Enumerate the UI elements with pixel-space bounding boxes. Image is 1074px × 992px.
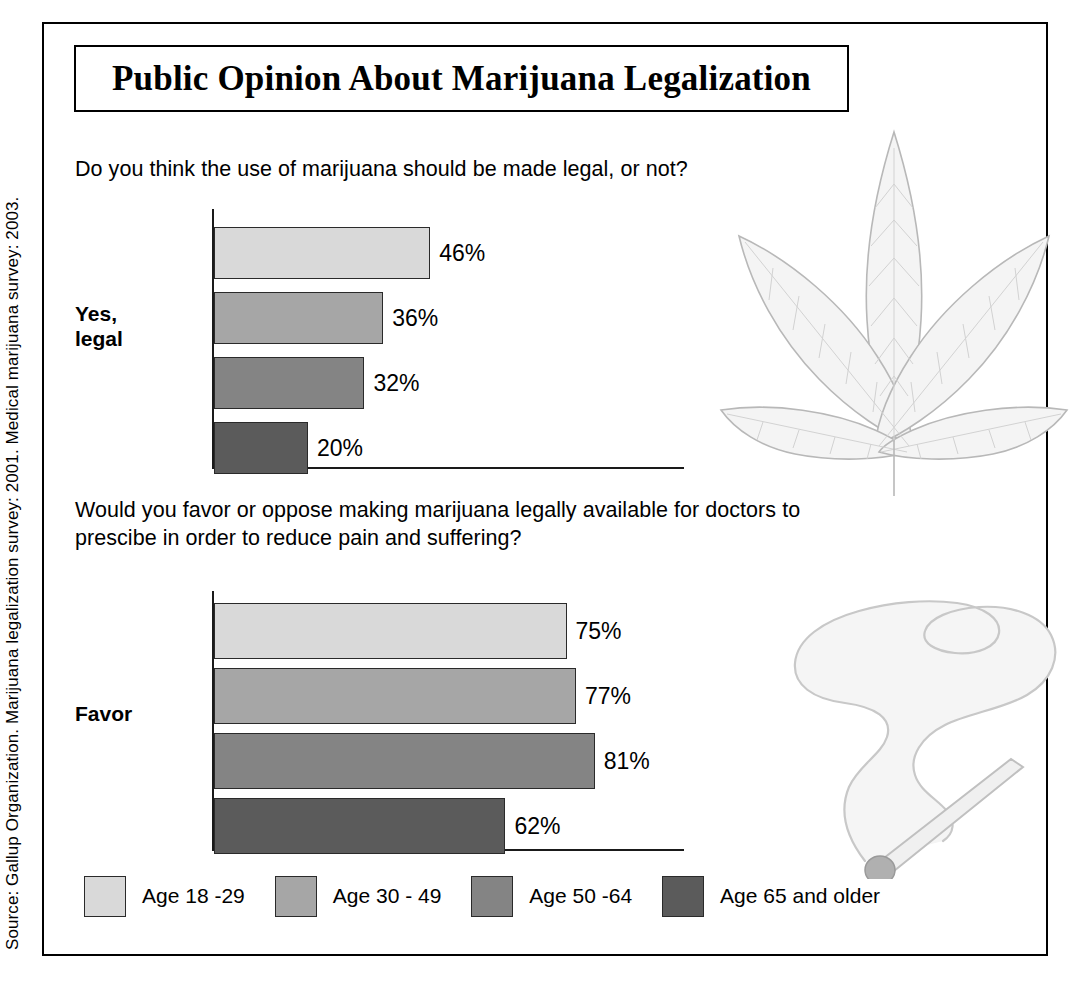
poster-root: Source: Gallup Organization. Marijuana l…: [0, 0, 1074, 992]
bar-value-label: 81%: [604, 750, 650, 773]
bar-row: 75%: [214, 603, 622, 659]
legend-item: Age 65 and older: [662, 876, 880, 917]
bar-value-label: 32%: [373, 372, 419, 395]
chart-favor: Favor 75%77%81%62%: [75, 591, 715, 851]
bar-age-18-29: [214, 227, 430, 279]
bar-value-label: 36%: [392, 307, 438, 330]
bar-row: 32%: [214, 357, 419, 409]
bar-value-label: 75%: [576, 620, 622, 643]
chart-legend: Age 18 -29Age 30 - 49Age 50 -64Age 65 an…: [84, 867, 1014, 925]
question-1-text: Do you think the use of marijuana should…: [75, 155, 835, 183]
chart-yes-legal: Yes,legal 46%36%32%20%: [75, 209, 715, 469]
title-box: Public Opinion About Marijuana Legalizat…: [74, 45, 849, 112]
page-title: Public Opinion About Marijuana Legalizat…: [112, 59, 811, 99]
bar-value-label: 46%: [439, 242, 485, 265]
bar-value-label: 20%: [317, 437, 363, 460]
question-2-text: Would you favor or oppose making marijua…: [75, 496, 865, 552]
bar-row: 81%: [214, 733, 650, 789]
bar-row: 77%: [214, 668, 631, 724]
bar-value-label: 77%: [585, 685, 631, 708]
poster-frame: Public Opinion About Marijuana Legalizat…: [42, 22, 1048, 956]
legend-label: Age 18 -29: [142, 884, 245, 908]
bar-age-30-49: [214, 292, 383, 344]
legend-swatch: [84, 876, 126, 917]
chart1-category-label: Yes,legal: [75, 301, 203, 351]
legend-item: Age 50 -64: [471, 876, 632, 917]
bar-age-50-64: [214, 733, 595, 789]
bar-row: 62%: [214, 798, 560, 854]
bar-age-30-49: [214, 668, 576, 724]
bar-row: 46%: [214, 227, 485, 279]
legend-label: Age 65 and older: [720, 884, 880, 908]
lit-joint-smoke-icon: [779, 589, 1074, 879]
chart2-bars: 75%77%81%62%: [214, 591, 715, 849]
bar-row: 36%: [214, 292, 438, 344]
legend-swatch: [471, 876, 513, 917]
legend-item: Age 18 -29: [84, 876, 245, 917]
legend-label: Age 30 - 49: [333, 884, 442, 908]
bar-age-18-29: [214, 603, 567, 659]
chart2-category-label: Favor: [75, 701, 203, 726]
bar-row: 20%: [214, 422, 363, 474]
source-credit: Source: Gallup Organization. Marijuana l…: [0, 110, 26, 950]
legend-swatch: [662, 876, 704, 917]
bar-age-50-64: [214, 357, 364, 409]
bar-age-65-and-older: [214, 798, 505, 854]
bar-value-label: 62%: [514, 815, 560, 838]
legend-swatch: [275, 876, 317, 917]
legend-item: Age 30 - 49: [275, 876, 442, 917]
chart1-bars: 46%36%32%20%: [214, 209, 715, 467]
bar-age-65-and-older: [214, 422, 308, 474]
legend-label: Age 50 -64: [529, 884, 632, 908]
